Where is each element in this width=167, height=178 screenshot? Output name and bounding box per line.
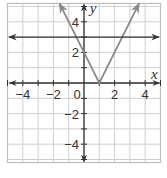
y-axis-label: y [88, 0, 97, 16]
y-tick-label: −2 [64, 107, 79, 122]
y-tick-label: 2 [72, 45, 79, 60]
x-tick-label: 4 [142, 87, 149, 102]
x-tick-label: 2 [111, 87, 118, 102]
x-tick-label: −4 [15, 87, 30, 102]
axes [8, 4, 161, 161]
y-tick-label: 4 [72, 15, 79, 30]
origin-label: 0 [73, 87, 80, 102]
x-axis-label: x [150, 66, 158, 82]
coordinate-plane: −4−2240−4−224xy [0, 0, 167, 178]
y-tick-label: −4 [64, 137, 79, 152]
x-tick-label: −2 [46, 87, 61, 102]
